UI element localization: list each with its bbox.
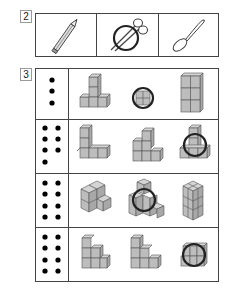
row-1-option-1[interactable] <box>69 69 119 119</box>
row-2-dots <box>36 120 68 173</box>
row-3-option-1[interactable] <box>69 174 119 227</box>
option-scissors[interactable] <box>97 14 158 56</box>
option-pencil[interactable] <box>36 14 96 56</box>
dots-8-icon <box>36 228 68 281</box>
spoon-icon <box>159 14 219 56</box>
pencil-icon <box>36 14 96 56</box>
row-2-option-2[interactable] <box>119 120 169 173</box>
row-3-dots <box>36 174 68 227</box>
row-1-option-3[interactable] <box>169 69 219 119</box>
circle-mark-icon <box>119 69 169 119</box>
row-4-dots <box>36 228 68 281</box>
question-2-table <box>35 13 219 57</box>
dots-8-icon <box>36 174 68 227</box>
row-1-dots <box>36 69 68 119</box>
row-3-option-2[interactable] <box>119 174 169 227</box>
row-3-option-3[interactable] <box>169 174 219 227</box>
cube-shape-icon <box>119 228 169 281</box>
cube-shape-icon <box>69 120 119 173</box>
dots-7-icon <box>36 120 68 173</box>
cube-shape-icon <box>169 174 219 227</box>
row-4-option-3[interactable] <box>169 228 219 281</box>
row-2-option-3[interactable] <box>169 120 219 173</box>
cube-shape-icon <box>69 228 119 281</box>
dots-3-icon <box>36 69 68 119</box>
circle-mark-icon <box>169 228 219 281</box>
question-2-number: 2 <box>20 10 32 23</box>
row-2-option-1[interactable] <box>69 120 119 173</box>
option-spoon[interactable] <box>159 14 219 56</box>
cube-shape-icon <box>69 174 119 227</box>
cube-shape-icon <box>119 120 169 173</box>
question-3-number: 3 <box>20 68 32 81</box>
circle-mark-icon <box>169 120 219 173</box>
cube-shape-icon <box>169 69 219 119</box>
row-1-option-2[interactable] <box>119 69 169 119</box>
row-4-option-2[interactable] <box>119 228 169 281</box>
circle-mark-icon <box>119 174 169 227</box>
question-3-table <box>35 68 219 282</box>
circle-mark-icon <box>97 14 158 56</box>
row-4-option-1[interactable] <box>69 228 119 281</box>
cube-shape-icon <box>69 69 119 119</box>
